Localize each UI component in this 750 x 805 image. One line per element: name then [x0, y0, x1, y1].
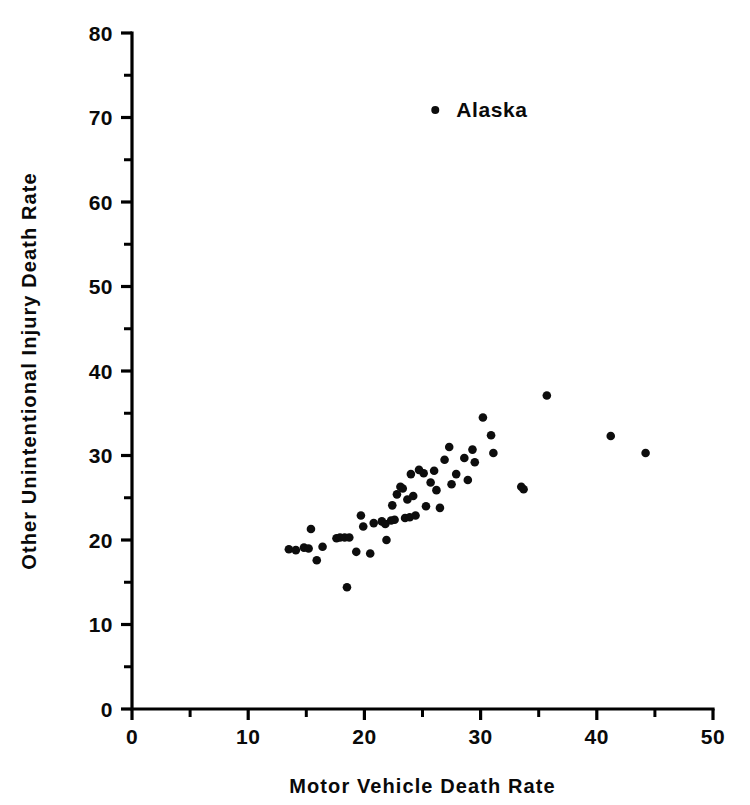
data-point [641, 449, 650, 458]
y-tick-label: 50 [89, 275, 113, 298]
y-tick-label: 40 [89, 360, 113, 383]
y-axis-title: Other Unintentional Injury Death Rate [18, 172, 40, 569]
x-tick-label: 30 [468, 725, 492, 748]
y-tick-label: 30 [89, 444, 113, 467]
data-point [430, 466, 439, 475]
y-tick-label: 70 [89, 106, 113, 129]
data-point [382, 536, 391, 545]
x-tick-label: 20 [352, 725, 376, 748]
data-point [369, 519, 378, 528]
axis-tick-labels: 0102030405060708001020304050 [89, 22, 726, 749]
x-tick-label: 40 [585, 725, 609, 748]
data-point [422, 502, 431, 511]
axis-ticks [121, 33, 713, 720]
data-point [460, 454, 469, 463]
scatter-plot-figure: 0102030405060708001020304050 Alaska Moto… [0, 0, 750, 805]
data-point [445, 443, 454, 452]
data-points [285, 391, 650, 591]
data-point [447, 480, 456, 489]
data-point [432, 486, 441, 495]
data-point [390, 515, 399, 524]
chart-canvas: 0102030405060708001020304050 Alaska Moto… [0, 0, 750, 805]
data-point [345, 533, 354, 542]
axis-spine [132, 33, 713, 709]
data-point [436, 504, 445, 513]
data-point [606, 432, 615, 441]
data-point [304, 544, 313, 553]
data-point [487, 431, 496, 440]
data-point [470, 458, 479, 467]
y-tick-label: 0 [101, 698, 113, 721]
data-point [366, 549, 375, 558]
data-point [312, 556, 321, 565]
data-point [407, 470, 416, 479]
annotation-label-alaska: Alaska [456, 98, 527, 121]
data-point [343, 583, 352, 592]
x-axis-title: Motor Vehicle Death Rate [289, 775, 555, 797]
data-point [519, 485, 528, 494]
data-point [388, 501, 397, 510]
data-point [352, 548, 361, 557]
data-point [468, 445, 477, 454]
data-point [359, 522, 368, 531]
data-point [479, 413, 488, 422]
data-point [292, 546, 301, 555]
annotations: Alaska [431, 98, 527, 121]
data-point [318, 542, 327, 551]
x-tick-label: 0 [126, 725, 138, 748]
data-point [419, 469, 428, 478]
x-tick-label: 10 [236, 725, 260, 748]
x-tick-label: 50 [701, 725, 725, 748]
data-point [464, 476, 473, 485]
data-point [426, 478, 435, 487]
data-point [489, 449, 498, 458]
data-point [411, 511, 420, 520]
y-tick-label: 10 [89, 613, 113, 636]
data-point [440, 455, 449, 464]
y-tick-label: 60 [89, 191, 113, 214]
y-tick-label: 80 [89, 22, 113, 45]
data-point [357, 511, 366, 520]
axes [132, 33, 713, 709]
annotation-marker [431, 106, 439, 114]
data-point [307, 525, 316, 534]
data-point [543, 391, 552, 400]
y-tick-label: 20 [89, 529, 113, 552]
data-point [409, 492, 418, 501]
data-point [398, 484, 407, 493]
data-point [452, 470, 461, 479]
